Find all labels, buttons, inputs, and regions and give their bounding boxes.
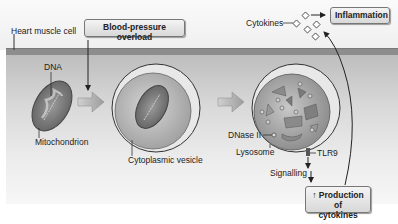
lysosome-label: Lysosome [236,147,274,157]
lysosome-icon [252,64,340,152]
inflammation-box: Inflammation [330,7,390,24]
production-line-2: cytokines [310,210,366,220]
cytokines-label: Cytokines [246,18,283,28]
production-line-1: ↑ Production of [310,190,366,210]
autophagic-vesicle-icon [112,64,200,152]
blood-pressure-overload-box: Blood-pressure overload [84,19,185,37]
tlr9-label: TLR9 [317,148,338,158]
signalling-label: Signalling [270,168,307,178]
mitochondrion-icon [24,74,80,138]
cytoplasmic-vesicle-label: Cytoplasmic vesicle [128,155,203,165]
tlr9-receptor-icon [306,148,310,156]
process-arrow-1 [78,92,104,112]
diagram-canvas: Heart muscle cell Blood-pressure overloa… [0,0,398,224]
process-arrow-2 [218,92,244,112]
dna-label: DNA [44,62,62,72]
dnase-ii-label: DNase II [228,130,261,140]
mitochondrion-label: Mitochondrion [35,137,88,147]
production-of-cytokines-box: ↑ Production of cytokines [305,186,371,213]
cytokine-particles-icon [293,12,320,40]
heart-muscle-cell-label: Heart muscle cell [11,26,76,36]
